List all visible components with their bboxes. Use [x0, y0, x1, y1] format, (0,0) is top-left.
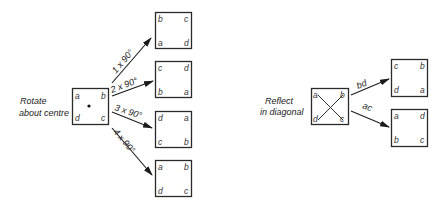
rotate-caption-line1: Rotate [20, 96, 47, 106]
corner-label: b [158, 14, 163, 24]
arrow-label: ac [361, 100, 374, 113]
reflect-result-ac: a d b c [392, 110, 428, 147]
corner-label: a [158, 162, 163, 172]
rotate-section: Rotate about centre a b d c 1 x 90° 2 x … [19, 13, 192, 197]
corner-label: a [394, 111, 399, 121]
reflect-section: Reflect in diagonal a b d c bd ac c b d … [260, 60, 428, 147]
corner-label: b [158, 87, 163, 97]
corner-label: d [420, 111, 425, 121]
reflect-caption-line1: Reflect [265, 96, 294, 106]
corner-label: b [420, 61, 425, 71]
corner-label: b [184, 137, 189, 147]
rotate-result-1: b c a d [156, 13, 192, 49]
centre-dot [87, 104, 90, 107]
rotate-source-square: a b d c [73, 89, 109, 125]
corner-label: d [184, 63, 189, 73]
corner-label: a [313, 90, 318, 100]
corner-label: a [420, 85, 425, 95]
corner-label: a [184, 87, 189, 97]
corner-label: b [340, 90, 345, 100]
arrow-label: 4 x 90° [111, 127, 137, 155]
corner-label: b [101, 91, 106, 101]
rotate-result-4: a b d c [156, 161, 192, 197]
corner-label: d [158, 113, 163, 123]
corner-label: d [184, 38, 189, 48]
reflect-result-bd: c b d a [392, 60, 428, 97]
reflect-caption-line2: in diagonal [260, 107, 305, 117]
rotate-result-3: d a c b [156, 112, 192, 148]
corner-label: b [184, 162, 189, 172]
arrow-label: 3 x 90° [113, 102, 143, 120]
corner-label: d [158, 186, 163, 196]
corner-label: a [184, 113, 189, 123]
transformations-diagram: Rotate about centre a b d c 1 x 90° 2 x … [0, 0, 448, 206]
corner-label: d [75, 113, 80, 123]
corner-label: a [75, 91, 80, 101]
reflect-source-square: a b d c [312, 89, 349, 125]
arrow-reflect-ac [351, 111, 389, 127]
corner-label: d [313, 114, 318, 124]
corner-label: d [394, 85, 399, 95]
rotate-result-2: c d b a [156, 62, 192, 98]
corner-label: a [158, 38, 163, 48]
corner-label: b [394, 135, 399, 145]
rotate-caption-line2: about centre [19, 108, 69, 118]
